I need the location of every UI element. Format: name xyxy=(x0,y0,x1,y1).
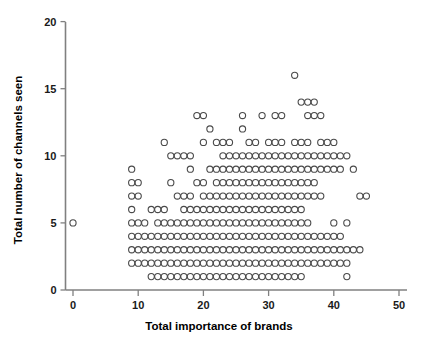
data-point-marker xyxy=(239,193,245,199)
data-point-marker xyxy=(239,220,245,226)
data-point-marker xyxy=(285,233,291,239)
data-point-marker xyxy=(331,260,337,266)
data-point-marker xyxy=(207,233,213,239)
data-point-marker xyxy=(272,193,278,199)
data-point-marker xyxy=(266,166,272,172)
data-point-marker xyxy=(259,166,265,172)
data-point-marker xyxy=(168,247,174,253)
data-point-marker xyxy=(142,260,148,266)
data-point-marker xyxy=(279,260,285,266)
data-point-marker xyxy=(226,193,232,199)
data-point-marker xyxy=(187,166,193,172)
data-point-marker xyxy=(155,220,161,226)
data-point-marker xyxy=(311,193,317,199)
data-point-marker xyxy=(279,273,285,279)
data-point-marker xyxy=(252,180,258,186)
data-point-marker xyxy=(246,206,252,212)
data-point-marker xyxy=(272,220,278,226)
data-point-marker xyxy=(272,206,278,212)
data-point-marker xyxy=(298,273,304,279)
data-point-marker xyxy=(357,193,363,199)
data-point-marker xyxy=(305,193,311,199)
data-point-marker xyxy=(252,220,258,226)
data-point-marker xyxy=(266,233,272,239)
data-point-marker xyxy=(233,273,239,279)
data-point-marker xyxy=(324,233,330,239)
data-point-marker xyxy=(161,139,167,145)
data-point-marker xyxy=(292,193,298,199)
data-point-marker xyxy=(266,139,272,145)
data-point-marker xyxy=(168,233,174,239)
data-point-marker xyxy=(226,153,232,159)
data-point-marker xyxy=(200,260,206,266)
data-point-marker xyxy=(233,166,239,172)
data-point-marker xyxy=(129,247,135,253)
data-point-marker xyxy=(298,99,304,105)
data-point-marker xyxy=(246,233,252,239)
data-point-marker xyxy=(181,153,187,159)
data-point-marker xyxy=(252,206,258,212)
data-point-marker xyxy=(318,166,324,172)
data-point-marker xyxy=(233,260,239,266)
data-point-marker xyxy=(272,260,278,266)
data-point-marker xyxy=(226,180,232,186)
data-point-marker xyxy=(311,247,317,253)
data-point-marker xyxy=(135,260,141,266)
data-point-marker xyxy=(161,220,167,226)
data-point-marker xyxy=(279,220,285,226)
data-point-marker xyxy=(318,139,324,145)
data-point-marker xyxy=(200,247,206,253)
data-point-marker xyxy=(272,180,278,186)
data-point-marker xyxy=(168,180,174,186)
data-point-marker xyxy=(298,220,304,226)
data-point-marker xyxy=(305,139,311,145)
data-point-marker xyxy=(220,220,226,226)
data-point-marker xyxy=(292,260,298,266)
data-point-marker xyxy=(220,206,226,212)
data-point-marker xyxy=(279,153,285,159)
data-point-marker xyxy=(252,273,258,279)
data-point-marker xyxy=(266,273,272,279)
data-point-marker xyxy=(292,220,298,226)
data-point-marker xyxy=(194,273,200,279)
data-point-marker xyxy=(350,247,356,253)
data-point-marker xyxy=(148,273,154,279)
data-point-marker xyxy=(161,233,167,239)
data-point-marker xyxy=(272,247,278,253)
data-point-marker xyxy=(337,153,343,159)
data-point-marker xyxy=(266,153,272,159)
data-point-marker xyxy=(187,153,193,159)
data-point-marker xyxy=(233,193,239,199)
data-point-marker xyxy=(272,166,278,172)
data-point-marker xyxy=(129,180,135,186)
data-point-marker xyxy=(226,206,232,212)
data-point-marker xyxy=(292,139,298,145)
data-point-marker xyxy=(259,273,265,279)
y-tick-label: 5 xyxy=(50,217,56,229)
data-point-marker xyxy=(181,273,187,279)
data-point-marker xyxy=(259,112,265,118)
data-point-marker xyxy=(272,139,278,145)
data-point-marker xyxy=(252,260,258,266)
data-point-marker xyxy=(279,112,285,118)
data-point-marker xyxy=(239,206,245,212)
data-point-marker xyxy=(129,166,135,172)
data-point-marker xyxy=(174,233,180,239)
data-point-marker xyxy=(252,193,258,199)
data-point-marker xyxy=(324,139,330,145)
data-point-marker xyxy=(337,260,343,266)
data-point-marker xyxy=(246,247,252,253)
data-point-marker xyxy=(213,139,219,145)
data-point-marker xyxy=(161,260,167,266)
data-point-marker xyxy=(285,180,291,186)
data-point-marker xyxy=(213,193,219,199)
data-point-marker xyxy=(324,260,330,266)
y-axis-title: Total number of channels seen xyxy=(12,76,24,245)
data-point-marker xyxy=(161,247,167,253)
data-point-marker xyxy=(266,193,272,199)
data-point-marker xyxy=(194,260,200,266)
data-point-marker xyxy=(174,220,180,226)
data-point-marker xyxy=(324,247,330,253)
scatter-plot-figure: 0510152001020304050 Total importance of … xyxy=(0,0,434,345)
data-point-marker xyxy=(129,220,135,226)
